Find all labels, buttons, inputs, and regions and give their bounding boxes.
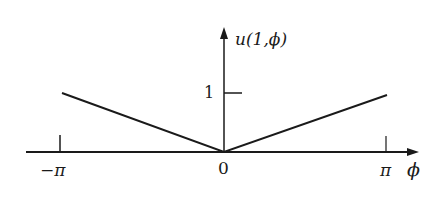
y-axis-arrow-icon: [220, 27, 228, 39]
x-tick-label-neg-pi: −π: [40, 162, 65, 179]
y-axis-label-text: u(1,ϕ): [235, 29, 287, 49]
x-tick-label-zero: 0: [218, 160, 229, 177]
x-tick-label-pi-text: π: [380, 160, 391, 180]
y-tick-label-1-text: 1: [204, 83, 214, 102]
x-tick-label-pi: π: [380, 162, 391, 179]
x-axis-arrow-icon: [407, 148, 419, 156]
x-tick-label-zero-text: 0: [218, 158, 229, 178]
x-axis-label-text: ϕ: [407, 158, 420, 180]
x-axis-label: ϕ: [407, 160, 420, 179]
y-tick-label-1: 1: [204, 85, 214, 101]
x-tick-label-neg-pi-text: −π: [40, 160, 65, 180]
y-axis-label: u(1,ϕ): [235, 31, 287, 48]
v-shape-diagram: u(1,ϕ) 1 −π 0 π ϕ: [0, 0, 443, 199]
